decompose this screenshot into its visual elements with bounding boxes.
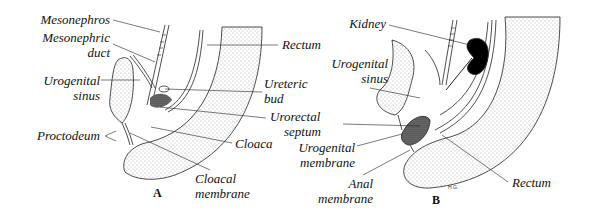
- label-cloacal-membrane-line2: membrane: [195, 187, 250, 201]
- label-ureteric-bud-line1: Ureteric: [264, 77, 308, 91]
- label-urorectal-septum-line2: septum: [284, 125, 321, 139]
- label-urogenital-membrane-line2: membrane: [280, 156, 355, 170]
- panel-a-drawing: [101, 20, 278, 179]
- label-mesonephric-duct-line2: duct: [22, 46, 110, 60]
- label-rectum-b: Rectum: [512, 176, 551, 190]
- label-mesonephric-duct-line1: Mesonephric: [22, 31, 110, 45]
- panel-letter-a: A: [153, 186, 162, 201]
- label-urogenital-membrane-line1: Urogenital: [280, 141, 355, 155]
- label-proctodeum: Proctodeum: [10, 129, 100, 143]
- artist-signature: H.G.: [448, 184, 458, 190]
- panel-letter-b: B: [432, 193, 440, 208]
- label-urorectal-septum-line1: Urorectal: [270, 110, 320, 124]
- panel-b-drawing: [343, 17, 560, 188]
- label-urogenital-sinus-a-line2: sinus: [22, 89, 100, 103]
- label-urogenital-sinus-a-line1: Urogenital: [22, 74, 100, 88]
- label-mesonephros: Mesonephros: [22, 13, 110, 27]
- label-kidney: Kidney: [330, 17, 386, 31]
- label-ureteric-bud-line2: bud: [264, 92, 284, 106]
- label-cloacal-membrane-line1: Cloacal: [195, 172, 236, 186]
- label-anal-membrane-line2: membrane: [300, 192, 373, 206]
- label-urogenital-sinus-b-line1: Urogenital: [318, 57, 388, 71]
- label-anal-membrane-line1: Anal: [300, 177, 373, 191]
- embryology-figure: Mesonephros Mesonephric duct Urogenital …: [0, 0, 589, 217]
- label-rectum-a: Rectum: [282, 38, 321, 52]
- label-urogenital-sinus-b-line2: sinus: [318, 72, 388, 86]
- label-cloaca: Cloaca: [235, 137, 273, 151]
